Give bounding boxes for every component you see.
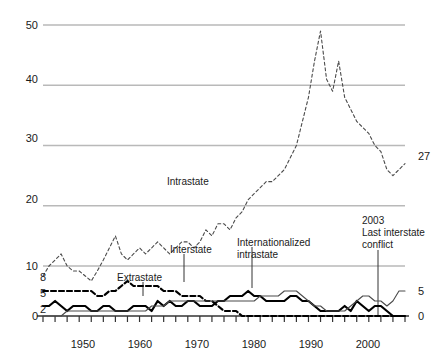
annotation-event-line2: conflict: [362, 239, 393, 250]
end-label-intrastate: 27: [418, 150, 430, 162]
end-label-internationalized-intrastate: 5: [418, 285, 424, 297]
series-line-intrastate: [43, 31, 405, 281]
annotation-event-year: 2003: [362, 215, 384, 226]
y-tick-label-10: 10: [14, 261, 38, 272]
series-line-interstate: [43, 291, 405, 316]
chart-plot-area: [0, 0, 440, 364]
y-tick-label-8: 8: [22, 272, 46, 283]
y-tick-label-20: 20: [14, 194, 38, 205]
annotation-internationalized-intrastate-line2: intrastate: [237, 249, 278, 260]
x-tick-label-1960: 1960: [118, 338, 162, 350]
x-tick-label-1990: 1990: [289, 338, 333, 350]
annotation-event-line1: Last interstate: [362, 227, 425, 238]
annotation-intrastate: Intrastate: [167, 176, 209, 187]
y-tick-label-50: 50: [14, 20, 38, 31]
series-line-internationalized-intrastate: [43, 291, 405, 316]
y-tick-label-0: 0: [14, 311, 38, 322]
x-tick-label-1950: 1950: [61, 338, 105, 350]
y-tick-label-40: 40: [14, 74, 38, 85]
y-tick-label-30: 30: [14, 133, 38, 144]
chart-container: 50 40 30 20 10 8 5 2 0 1950 1960 1970 19…: [0, 0, 440, 364]
annotation-extrastate: Extrastate: [117, 272, 162, 283]
annotation-interstate: Interstate: [170, 244, 212, 255]
x-tick-label-2000: 2000: [346, 338, 390, 350]
x-tick-label-1970: 1970: [175, 338, 219, 350]
data-series-group: [43, 31, 405, 316]
y-tick-label-5: 5: [22, 288, 46, 299]
end-label-interstate: 0: [418, 310, 424, 322]
gridlines-group: [43, 25, 405, 266]
x-tick-label-1980: 1980: [232, 338, 276, 350]
annotation-internationalized-intrastate-line1: Internationalized: [237, 237, 310, 248]
